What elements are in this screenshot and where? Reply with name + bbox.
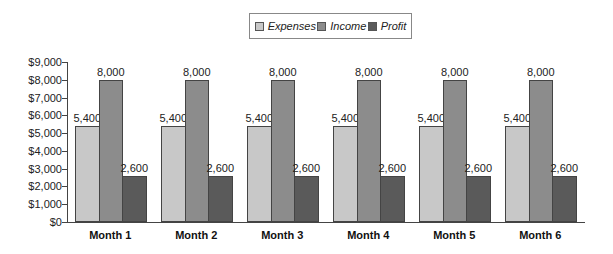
bar-income (185, 80, 210, 222)
x-category-label: Month 4 (328, 229, 408, 241)
bar-profit (466, 176, 491, 222)
bar-expenses (333, 126, 358, 222)
plot-area: $0$1,000$2,000$3,000$4,000$5,000$6,000$7… (0, 0, 613, 254)
y-tick (62, 115, 67, 116)
bar-value-label: 2,600 (286, 162, 326, 174)
bar-value-label: 2,600 (372, 162, 412, 174)
y-tick (62, 151, 67, 152)
bar-income (443, 80, 468, 222)
bar-expenses (75, 126, 100, 222)
y-tick-label: $5,000 (28, 127, 62, 139)
y-tick (62, 80, 67, 81)
x-axis (67, 222, 585, 223)
x-category-label: Month 3 (242, 229, 322, 241)
x-category-label: Month 5 (414, 229, 494, 241)
bar-income (529, 80, 554, 222)
y-tick (62, 98, 67, 99)
y-tick-label: $6,000 (28, 109, 62, 121)
bar-income (357, 80, 382, 222)
y-tick-label: $1,000 (28, 198, 62, 210)
bar-profit (552, 176, 577, 222)
x-category-label: Month 2 (156, 229, 236, 241)
y-tick (62, 169, 67, 170)
bar-value-label: 8,000 (263, 66, 303, 78)
y-tick (62, 62, 67, 63)
bar-profit (294, 176, 319, 222)
bar-value-label: 8,000 (435, 66, 475, 78)
bar-value-label: 2,600 (458, 162, 498, 174)
y-tick-label: $7,000 (28, 92, 62, 104)
bar-value-label: 8,000 (349, 66, 389, 78)
bar-value-label: 8,000 (177, 66, 217, 78)
x-category-label: Month 6 (500, 229, 580, 241)
bar-profit (122, 176, 147, 222)
y-tick-label: $4,000 (28, 145, 62, 157)
bar-value-label: 2,600 (544, 162, 584, 174)
bar-expenses (161, 126, 186, 222)
y-tick-label: $3,000 (28, 163, 62, 175)
y-tick-label: $2,000 (28, 180, 62, 192)
bar-profit (208, 176, 233, 222)
bar-expenses (247, 126, 272, 222)
bar-value-label: 8,000 (91, 66, 131, 78)
bar-income (271, 80, 296, 222)
y-tick-label: $8,000 (28, 74, 62, 86)
y-axis (67, 62, 68, 222)
bar-income (99, 80, 124, 222)
y-tick (62, 222, 67, 223)
y-tick (62, 186, 67, 187)
bar-expenses (505, 126, 530, 222)
y-tick-label: $0 (50, 216, 62, 228)
bar-value-label: 2,600 (200, 162, 240, 174)
y-tick (62, 133, 67, 134)
y-tick (62, 204, 67, 205)
y-tick-label: $9,000 (28, 56, 62, 68)
bar-value-label: 8,000 (521, 66, 561, 78)
bar-profit (380, 176, 405, 222)
bar-value-label: 2,600 (114, 162, 154, 174)
x-category-label: Month 1 (70, 229, 150, 241)
bar-expenses (419, 126, 444, 222)
